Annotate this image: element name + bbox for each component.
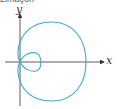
y-axis-label: y — [16, 3, 22, 16]
limacon-plot — [0, 0, 117, 109]
x-axis-label: x — [106, 54, 112, 67]
outer-loop — [18, 22, 86, 101]
